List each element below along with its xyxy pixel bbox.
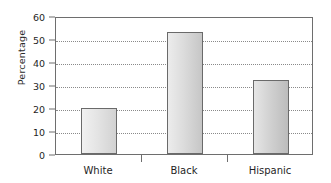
- bar-chart-figure: Percentage 0102030405060 WhiteBlackHispa…: [0, 0, 331, 183]
- y-axis-tick-label: 50: [0, 35, 45, 46]
- x-axis-tick-label-hispanic: Hispanic: [249, 165, 292, 176]
- y-axis-tick-label: 0: [0, 150, 45, 161]
- bar-white: [81, 108, 117, 154]
- x-axis-separator: [227, 155, 228, 162]
- y-axis-tick-label: 40: [0, 58, 45, 69]
- y-axis-tick-label: 20: [0, 104, 45, 115]
- x-axis-tick-label-white: White: [83, 165, 112, 176]
- x-axis: WhiteBlackHispanic: [55, 155, 313, 183]
- bar-hispanic: [253, 80, 289, 154]
- bar-black: [167, 32, 203, 154]
- plot-area: [55, 17, 313, 155]
- x-axis-separator: [141, 155, 142, 162]
- y-axis-tick-label: 10: [0, 127, 45, 138]
- x-axis-tick-label-black: Black: [170, 165, 197, 176]
- y-axis-tick-label: 60: [0, 12, 45, 23]
- y-axis-tick-label: 30: [0, 81, 45, 92]
